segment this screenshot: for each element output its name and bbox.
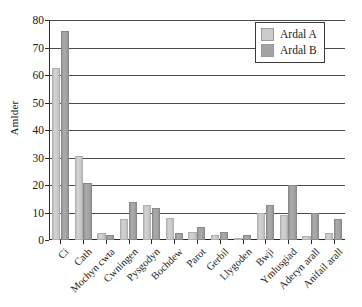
bar-ardal-a — [120, 219, 128, 240]
bar-group: Ci — [49, 20, 72, 240]
bar-ardal-b — [197, 227, 205, 240]
x-axis-tick-mark — [83, 240, 84, 244]
bar-group: Parot — [186, 20, 209, 240]
legend-color-swatch — [261, 28, 274, 41]
y-axis-tick-label: 10 — [33, 207, 45, 219]
bar-ardal-a — [325, 233, 333, 240]
x-axis-tick-mark — [334, 240, 335, 244]
y-axis-tick-label: 20 — [33, 179, 45, 191]
bar-group: Gerbil — [208, 20, 231, 240]
bar-ardal-b — [243, 235, 251, 240]
bar-ardal-b — [152, 208, 160, 240]
x-axis-tick-mark — [197, 240, 198, 244]
y-axis-tick-label: 80 — [33, 14, 45, 26]
y-axis-tick-label: 0 — [38, 234, 44, 246]
bar-ardal-a — [143, 205, 151, 240]
y-axis-tick-label: 40 — [33, 124, 45, 136]
bar-ardal-b — [61, 31, 69, 240]
bar-group: Llygoden — [231, 20, 254, 240]
bar-ardal-b — [106, 235, 114, 240]
bar-group: Pysgodyn — [140, 20, 163, 240]
bar-group: Cwningen — [117, 20, 140, 240]
x-axis-tick-label: Ci — [56, 246, 71, 261]
bar-ardal-a — [97, 233, 105, 240]
x-axis-tick-mark — [106, 240, 107, 244]
y-axis-tick-label: 70 — [33, 42, 45, 54]
x-axis-tick-mark — [60, 240, 61, 244]
bar-group: Anifail arall — [322, 20, 345, 240]
x-axis-tick-label-text: Ci — [56, 246, 71, 261]
legend-label: Ardal A — [280, 28, 317, 40]
bar-group: Bochdew — [163, 20, 186, 240]
y-axis-title: Amlder — [8, 78, 20, 158]
bar-ardal-a — [75, 156, 83, 240]
x-axis-tick-mark — [174, 240, 175, 244]
bar-ardal-a — [280, 215, 288, 240]
y-axis-tick-label: 60 — [33, 69, 45, 81]
bar-ardal-b — [266, 205, 274, 240]
bar-ardal-a — [302, 236, 310, 240]
bar-group: Cath — [72, 20, 95, 240]
bar-ardal-b — [334, 219, 342, 240]
y-axis-tick-label: 50 — [33, 97, 45, 109]
y-axis-tick-mark — [45, 240, 49, 241]
chart-legend: Ardal AArdal B — [255, 22, 325, 63]
bar-ardal-a — [188, 232, 196, 240]
bar-ardal-b — [288, 185, 296, 240]
bar-ardal-a — [166, 218, 174, 240]
legend-entry: Ardal B — [261, 42, 317, 58]
legend-color-swatch — [261, 44, 274, 57]
bar-ardal-a — [211, 235, 219, 240]
bar-ardal-b — [311, 213, 319, 241]
x-axis-tick-mark — [129, 240, 130, 244]
bar-ardal-a — [52, 68, 60, 240]
x-axis-tick-mark — [265, 240, 266, 244]
x-axis-tick-mark — [220, 240, 221, 244]
x-axis-tick-mark — [288, 240, 289, 244]
bar-ardal-b — [220, 232, 228, 240]
legend-entry: Ardal A — [261, 26, 317, 42]
x-axis-tick-mark — [151, 240, 152, 244]
bar-ardal-b — [175, 233, 183, 240]
x-axis-tick-mark — [243, 240, 244, 244]
bar-group: Mochyn cwta — [95, 20, 118, 240]
bar-chart: Amlder 01020304050607080 CiCathMochyn cw… — [0, 0, 362, 307]
bar-ardal-a — [257, 213, 265, 241]
bar-ardal-a — [234, 238, 242, 240]
y-axis-tick-label: 30 — [33, 152, 45, 164]
x-axis-tick-mark — [311, 240, 312, 244]
bar-ardal-b — [83, 183, 91, 240]
legend-label: Ardal B — [280, 44, 317, 56]
bar-ardal-b — [129, 202, 137, 240]
